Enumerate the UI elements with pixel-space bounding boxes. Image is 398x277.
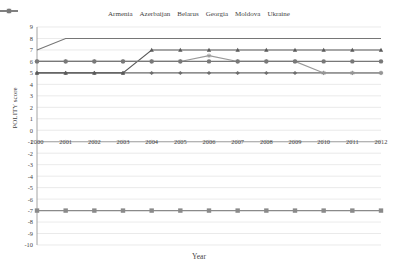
y-axis-tick-label: 5 <box>30 69 33 76</box>
y-axis-tick-label: -2 <box>28 150 33 157</box>
series-line <box>37 56 381 73</box>
y-axis-tick-label: -4 <box>28 173 34 180</box>
polity-score-line-chart: ArmeniaAzerbaijanBelarusGeorgiaMoldovaUk… <box>0 0 398 277</box>
series-marker <box>121 59 125 63</box>
series-marker <box>149 71 153 75</box>
series-marker <box>379 71 383 75</box>
series-marker <box>379 59 383 63</box>
y-axis-tick-label: 7 <box>30 46 34 53</box>
y-axis-tick-label: 0 <box>30 127 33 134</box>
x-axis-tick-label: 2004 <box>145 138 159 145</box>
y-axis-tick-label: -8 <box>28 218 33 225</box>
series-marker <box>92 59 96 63</box>
series-marker <box>35 59 39 63</box>
y-axis-tick-label: 6 <box>30 58 33 65</box>
series-marker <box>149 208 153 212</box>
series-marker <box>149 59 153 63</box>
y-axis-tick-label: 4 <box>30 81 34 88</box>
series-marker <box>350 208 354 212</box>
y-axis-tick-label: -6 <box>28 196 33 203</box>
series-marker <box>207 59 211 63</box>
series-marker <box>264 59 268 63</box>
y-axis-tick-label: -10 <box>24 241 33 248</box>
series-marker <box>350 71 354 75</box>
series-marker <box>63 59 67 63</box>
y-axis-tick-label: 2 <box>30 104 33 111</box>
series-marker <box>178 208 182 212</box>
series-marker <box>92 208 96 212</box>
series-marker <box>35 208 39 212</box>
plot-area: 9876543210-1-2-3-4-5-6-7-8-9-10200020012… <box>0 0 398 277</box>
series-marker <box>264 208 268 212</box>
series-marker <box>235 71 239 75</box>
series-marker <box>350 59 354 63</box>
y-axis-tick-label: -7 <box>28 207 34 214</box>
series-marker <box>235 59 239 63</box>
series-marker <box>121 208 125 212</box>
x-axis-tick-label: 2007 <box>231 138 245 145</box>
y-axis-tick-label: -5 <box>28 184 33 191</box>
y-axis-tick-label: 8 <box>30 35 33 42</box>
series-marker <box>63 208 67 212</box>
y-axis-tick-label: -9 <box>28 230 33 237</box>
series-marker <box>178 59 182 63</box>
series-marker <box>293 59 297 63</box>
series-marker <box>321 71 325 75</box>
series-marker <box>321 208 325 212</box>
y-axis-tick-label: 1 <box>30 115 33 122</box>
series-marker <box>207 208 211 212</box>
series-marker <box>235 208 239 212</box>
series-marker <box>293 71 297 75</box>
series-marker <box>379 208 383 212</box>
series-marker <box>264 71 268 75</box>
series-marker <box>178 71 182 75</box>
series-marker <box>293 208 297 212</box>
y-axis-tick-label: 3 <box>30 92 33 99</box>
series-marker <box>321 59 325 63</box>
series-marker <box>207 53 211 57</box>
y-axis-tick-label: 9 <box>30 23 33 30</box>
series-marker <box>207 71 211 75</box>
y-axis-tick-label: -3 <box>28 161 33 168</box>
